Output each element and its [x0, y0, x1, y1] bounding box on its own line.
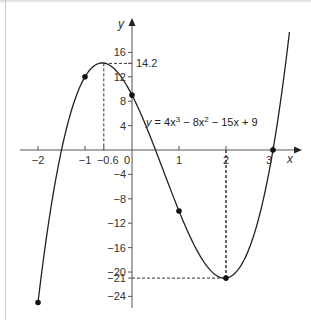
- data-point: [176, 208, 182, 214]
- x-axis-arrow-icon: [294, 147, 302, 154]
- y-tick-label: −8: [113, 193, 126, 205]
- marked-points: [35, 74, 276, 305]
- x-tick-label: 3: [266, 154, 272, 166]
- y-axis-arrow-icon: [129, 18, 136, 26]
- x-tick-label: 1: [176, 154, 182, 166]
- equation-label: y = 4x3 − 8x2 − 15x + 9: [145, 115, 258, 129]
- x-tick-label: 2: [223, 154, 229, 166]
- y-tick-label: −16: [107, 242, 126, 254]
- y-tick-label: −4: [113, 168, 126, 180]
- curve: [38, 32, 289, 303]
- y-tick-label: −12: [107, 217, 126, 229]
- y-tick-label: 4: [120, 120, 126, 132]
- data-point: [129, 92, 135, 98]
- cubic-curve: [38, 32, 289, 303]
- x-axis-label: x: [286, 152, 294, 166]
- data-point: [35, 300, 41, 306]
- y-axis-label: y: [117, 17, 125, 31]
- y-tick-label: 12: [114, 71, 126, 83]
- data-point: [270, 147, 276, 153]
- data-point: [223, 275, 229, 281]
- data-point: [82, 74, 88, 80]
- y-tick-label: 14.2: [136, 57, 157, 69]
- x-tick-label: 0: [124, 154, 130, 166]
- tick-labels: −2−1−0.601231614.21284−4−8−12−16−20−21−2…: [32, 46, 272, 302]
- x-tick-label: −0.6: [97, 154, 119, 166]
- x-tick-label: −2: [32, 154, 45, 166]
- y-tick-label: −24: [107, 290, 126, 302]
- y-tick-label: 8: [120, 95, 126, 107]
- y-tick-label: 16: [114, 46, 126, 58]
- x-tick-label: −1: [79, 154, 92, 166]
- y-tick-label: −21: [107, 272, 126, 284]
- cubic-function-chart: −2−1−0.601231614.21284−4−8−12−16−20−21−2…: [0, 0, 311, 320]
